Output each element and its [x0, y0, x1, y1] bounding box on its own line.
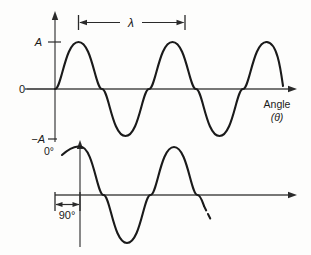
- phase-zero-label: 0°: [44, 145, 54, 157]
- wavelength-arrowhead-left: [79, 20, 87, 26]
- upper-horizontal-axis: [25, 86, 297, 92]
- upper-sine-curve-tail: [267, 42, 284, 86]
- amplitude-positive-label: A: [34, 36, 42, 48]
- wavelength-arrowhead-right: [177, 20, 185, 26]
- angle-variable-label: (θ): [271, 111, 284, 123]
- amplitude-negative-label: −A: [31, 133, 45, 145]
- upper-plot-group: A 0 λ Angle (θ): [19, 11, 297, 142]
- lower-wave-leadin: [62, 147, 78, 156]
- phase-arrowhead-right: [73, 202, 80, 207]
- angle-axis-label: Angle: [264, 98, 291, 110]
- phase-arrowhead-left: [56, 202, 63, 207]
- wavelength-label: λ: [127, 16, 134, 30]
- lower-plot-group: −A 0°: [31, 133, 297, 247]
- wave-figure: A 0 λ Angle (θ) −A 0°: [0, 0, 311, 255]
- upper-vertical-axis: [52, 11, 58, 142]
- lower-horizontal-axis: [55, 192, 297, 198]
- phase-ninety-label: 90°: [59, 209, 76, 221]
- wave-diagram-canvas: A 0 λ Angle (θ) −A 0°: [0, 0, 311, 255]
- origin-label: 0: [19, 83, 25, 95]
- lower-wave-dashed-tail: [204, 206, 211, 219]
